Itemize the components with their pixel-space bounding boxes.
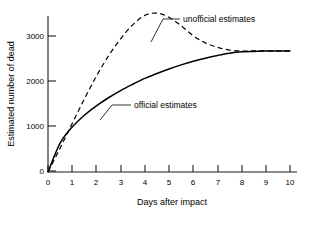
- x-tick-label-0: 0: [46, 178, 51, 187]
- annotation-label-unofficial: unofficial estimates: [183, 14, 255, 24]
- y-tick-label-2000: 2000: [26, 77, 44, 86]
- chart-container: 3000 2000 1000 0 0 1 2 3 4 5 6: [0, 0, 312, 225]
- x-tick-label-6: 6: [191, 178, 196, 187]
- x-tick-label-10: 10: [286, 178, 295, 187]
- chart-background: [0, 0, 312, 225]
- x-axis-title: Days after impact: [137, 197, 208, 207]
- annotation-label-official: official estimates: [134, 100, 197, 110]
- line-chart: 3000 2000 1000 0 0 1 2 3 4 5 6: [0, 0, 312, 225]
- x-tick-label-9: 9: [264, 178, 269, 187]
- x-tick-label-5: 5: [167, 178, 172, 187]
- x-tick-label-3: 3: [119, 178, 124, 187]
- y-axis-title: Estimated number of dead: [6, 41, 16, 147]
- y-tick-label-3000: 3000: [26, 32, 44, 41]
- x-tick-label-2: 2: [94, 178, 99, 187]
- x-tick-label-8: 8: [240, 178, 245, 187]
- x-tick-label-1: 1: [70, 178, 75, 187]
- x-tick-label-4: 4: [143, 178, 148, 187]
- x-tick-label-7: 7: [216, 178, 221, 187]
- y-tick-label-0: 0: [40, 167, 45, 176]
- y-tick-label-1000: 1000: [26, 122, 44, 131]
